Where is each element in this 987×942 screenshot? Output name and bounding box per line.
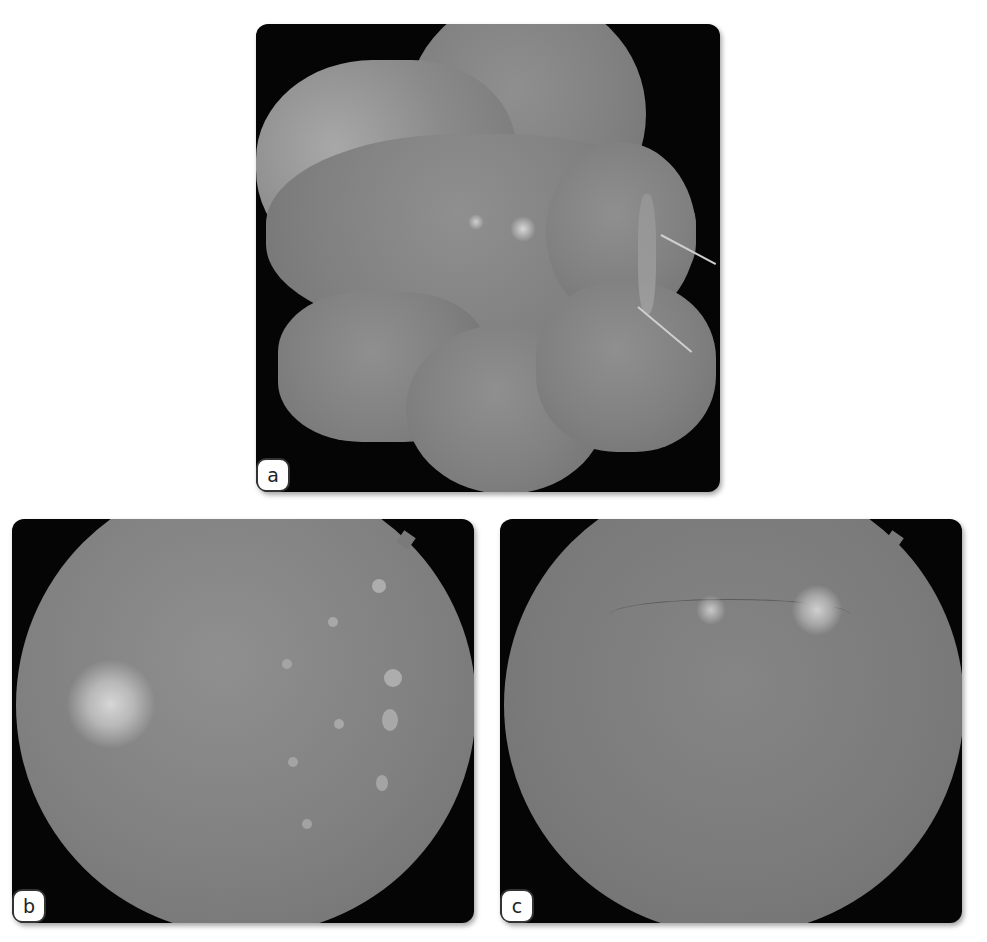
lesion-spot <box>302 819 312 829</box>
lesion-spot <box>288 757 298 767</box>
lesion-spot <box>384 669 402 687</box>
lesion-spot <box>328 617 338 627</box>
montage-tile-bottom-right <box>536 282 716 452</box>
panel-label-a: a <box>256 458 290 492</box>
optic-disc <box>510 216 536 242</box>
macular-spot <box>468 214 484 230</box>
optic-disc <box>66 659 156 749</box>
lesion-spot <box>334 719 344 729</box>
figure-panel-c: c <box>500 519 962 923</box>
panel-label-b: b <box>12 889 46 923</box>
macular-spot <box>696 595 726 625</box>
lesion-spot <box>382 709 398 731</box>
optic-disc <box>792 585 842 635</box>
fundus-image-c <box>504 519 962 923</box>
panel-label-c: c <box>500 889 534 923</box>
figure-panel-b: b <box>12 519 474 923</box>
lesion-spot <box>282 659 292 669</box>
lesion-spot <box>376 775 388 791</box>
lesion-spot <box>372 579 386 593</box>
lesion-line <box>638 194 656 314</box>
figure-panel-a: a <box>256 24 720 492</box>
